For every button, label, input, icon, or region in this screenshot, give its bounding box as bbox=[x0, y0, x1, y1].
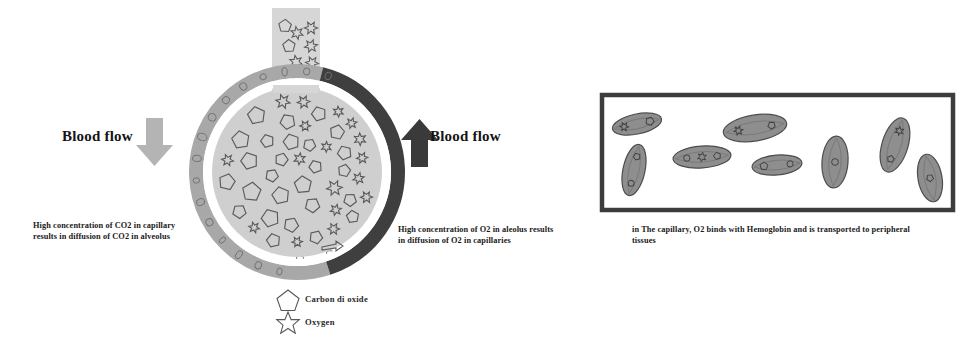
legend-label-oxygen: Oxygen bbox=[305, 317, 335, 327]
star-icon bbox=[274, 310, 302, 336]
legend-label-carbon-dioxide: Carbon di oxide bbox=[305, 294, 368, 304]
capillary-rbc-illustration bbox=[0, 0, 978, 260]
pentagon-icon bbox=[275, 288, 301, 312]
diagram-canvas: Blood flow High concentration of CO2 in … bbox=[0, 0, 978, 351]
hemoglobin-transport-caption: in The capillary, O2 binds with Hemoglob… bbox=[632, 224, 912, 247]
